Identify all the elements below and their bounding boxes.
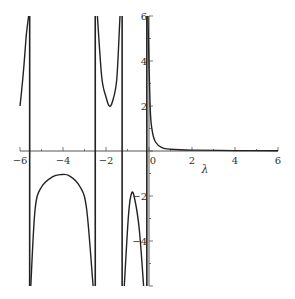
x-tick-label: −4	[56, 155, 71, 166]
x-tick-label: −2	[99, 155, 114, 166]
x-tick-label: 0	[150, 155, 156, 166]
y-tick-label: −2	[132, 191, 147, 202]
y-tick-label: 2	[141, 101, 147, 112]
curve-branch-5	[148, 16, 278, 151]
x-tick-label: −6	[13, 155, 28, 166]
x-axis-label: λ	[200, 163, 208, 176]
x-tick-label: 4	[232, 155, 238, 166]
plot-canvas: −6−4−20246642−2−4λ	[0, 0, 295, 299]
y-tick-label: −4	[132, 236, 147, 247]
curve-branch-1	[20, 16, 29, 106]
curve-branch-3	[97, 16, 120, 106]
curve-branch-2	[31, 174, 93, 286]
y-tick-label: 6	[141, 11, 147, 22]
x-tick-label: 6	[275, 155, 281, 166]
y-tick-label: 4	[141, 56, 147, 67]
x-tick-label: 2	[189, 155, 195, 166]
